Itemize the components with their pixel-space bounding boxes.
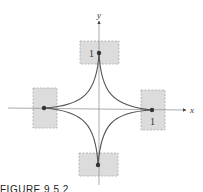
cusp-point-left <box>42 106 46 110</box>
cusp-point-bottom <box>96 163 100 167</box>
y-axis-label: y <box>96 10 101 20</box>
cusp-point-top <box>97 51 101 55</box>
tick-label-right: 1 <box>150 116 155 127</box>
figure-caption: FIGURE 9.5.2 <box>0 184 69 192</box>
tick-label-top: 1 <box>89 48 94 59</box>
x-axis-label: x <box>189 105 194 115</box>
astroid-figure: y x 1 1 <box>0 0 203 192</box>
cusp-point-right <box>150 108 154 112</box>
